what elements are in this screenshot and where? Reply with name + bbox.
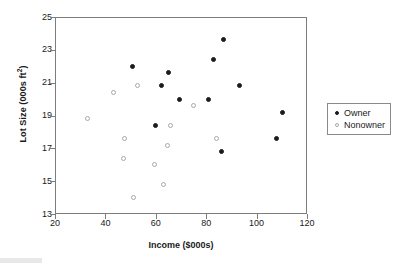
x-tick-label: 20 [40, 219, 70, 228]
legend-item-owner[interactable]: Owner [332, 107, 385, 119]
data-point-nonowner [122, 136, 127, 141]
data-point-owner [274, 136, 279, 141]
x-tick-mark [206, 214, 207, 219]
data-point-nonowner [111, 90, 116, 95]
x-tick-mark [55, 214, 56, 219]
data-point-nonowner [131, 195, 136, 200]
data-point-owner [177, 97, 182, 102]
y-tick-label: 13 [28, 210, 52, 219]
y-axis-title: Lot Size (000s ft2) [16, 24, 28, 184]
y-axis-title-tail: ) [18, 65, 28, 68]
data-point-nonowner [191, 103, 196, 108]
x-axis-title: Income ($000s) [55, 240, 307, 250]
x-tick-label: 100 [242, 219, 272, 228]
data-point-nonowner [135, 83, 140, 88]
plot-area [55, 17, 307, 214]
nonowner-marker-icon [332, 123, 342, 127]
data-point-nonowner [152, 162, 157, 167]
y-tick-label: 25 [28, 13, 52, 22]
y-tick-label: 21 [28, 78, 52, 87]
x-tick-mark [156, 214, 157, 219]
data-point-owner [219, 149, 224, 154]
x-tick-mark [307, 214, 308, 219]
x-tick-mark [257, 214, 258, 219]
data-point-nonowner [165, 143, 170, 148]
data-point-nonowner [85, 116, 90, 121]
x-tick-label: 60 [141, 219, 171, 228]
data-point-owner [221, 37, 226, 42]
data-point-owner [206, 97, 211, 102]
data-point-nonowner [168, 123, 173, 128]
y-tick-label: 23 [28, 45, 52, 54]
data-point-owner [159, 83, 164, 88]
x-tick-label: 80 [191, 219, 221, 228]
legend-item-nonowner[interactable]: Nonowner [332, 119, 385, 131]
data-point-nonowner [161, 182, 166, 187]
data-point-owner [166, 70, 171, 75]
data-point-owner [130, 64, 135, 69]
data-point-nonowner [121, 156, 126, 161]
x-tick-label: 120 [292, 219, 322, 228]
y-axis-title-main: Lot Size (000s ft [18, 72, 28, 142]
chart-legend: Owner Nonowner [327, 103, 391, 135]
legend-label-owner: Owner [344, 108, 371, 118]
y-tick-label: 15 [28, 177, 52, 186]
scatter-chart-figure: Lot Size (000s ft2) 13151719212325 20406… [0, 0, 404, 266]
data-point-owner [280, 110, 285, 115]
scan-edge-artifact [0, 258, 42, 263]
x-tick-label: 40 [90, 219, 120, 228]
data-point-owner [153, 123, 158, 128]
legend-label-nonowner: Nonowner [344, 120, 385, 130]
y-axis-title-superscript: 2 [16, 69, 23, 73]
data-point-nonowner [214, 136, 219, 141]
data-point-owner [211, 57, 216, 62]
y-tick-label: 19 [28, 111, 52, 120]
y-tick-label: 17 [28, 144, 52, 153]
x-tick-mark [105, 214, 106, 219]
owner-marker-icon [332, 111, 342, 115]
data-point-owner [237, 83, 242, 88]
